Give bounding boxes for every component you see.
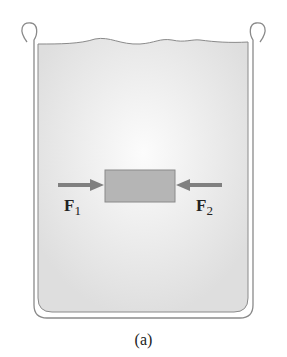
force-label-f1: F1 bbox=[64, 196, 81, 219]
force-label-f2: F2 bbox=[196, 196, 213, 219]
beaker-diagram bbox=[0, 0, 287, 357]
submerged-block bbox=[105, 170, 175, 202]
figure-caption: (a) bbox=[0, 331, 287, 349]
